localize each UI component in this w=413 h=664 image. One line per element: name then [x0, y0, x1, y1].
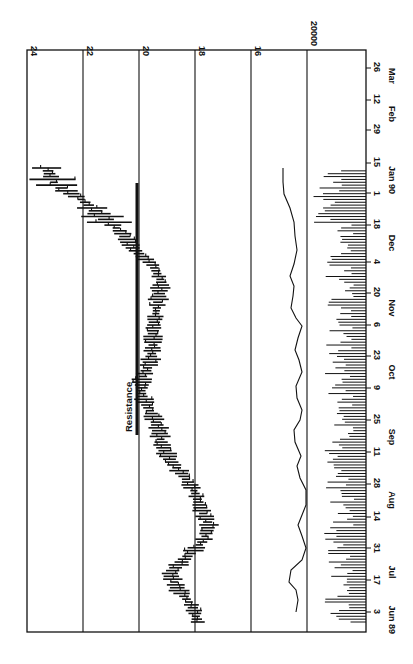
month-label: Aug	[387, 491, 397, 509]
tick-22: 22	[85, 46, 95, 56]
date-label: 20	[372, 287, 382, 297]
volume-average-line	[283, 168, 306, 612]
date-axis-labels: 3 17 31 14 28 11 25 9 23 6 20 4 18 1 15 …	[372, 62, 382, 614]
date-label: 6	[372, 322, 382, 327]
tick-16: 16	[253, 46, 263, 56]
month-label: Mar	[387, 68, 397, 85]
date-label: 26	[372, 62, 382, 72]
tick-20000: 20000	[309, 21, 319, 46]
date-label: 29	[372, 124, 382, 134]
gridlines	[83, 50, 307, 632]
volume-bars	[314, 171, 366, 622]
price-volume-chart: 24 22 20 18 16 20000 3 17 31 14 28 11 25…	[0, 0, 413, 664]
date-label: 3	[372, 609, 382, 614]
date-label: 9	[372, 385, 382, 390]
date-label: 23	[372, 350, 382, 360]
date-label: 1	[372, 191, 382, 196]
month-label: Sep	[387, 429, 397, 446]
resistance-line	[136, 183, 139, 435]
month-label: Jan 90	[387, 166, 397, 194]
month-label: Feb	[387, 106, 397, 123]
tick-24: 24	[29, 46, 39, 56]
date-label: 4	[372, 259, 382, 264]
tick-20: 20	[141, 46, 151, 56]
date-label: 12	[372, 94, 382, 104]
month-label: Dec	[387, 235, 397, 252]
tick-18: 18	[197, 46, 207, 56]
date-label: 15	[372, 157, 382, 167]
price-axis-labels: 24 22 20 18 16 20000	[29, 21, 319, 56]
month-axis-labels: Jun 89 Jul Aug Sep Oct Nov Dec Jan 90 Fe…	[387, 68, 397, 634]
date-label: 11	[372, 447, 382, 457]
date-label: 31	[372, 543, 382, 553]
resistance-label: Resistance	[123, 382, 134, 432]
date-label: 14	[372, 511, 382, 521]
date-label: 18	[372, 219, 382, 229]
date-label: 25	[372, 414, 382, 424]
date-label: 28	[372, 478, 382, 488]
date-label: 17	[372, 575, 382, 585]
month-label: Oct	[387, 364, 397, 379]
month-label: Nov	[387, 299, 397, 316]
date-ticks	[366, 68, 371, 612]
month-label: Jul	[387, 565, 397, 578]
month-label: Jun 89	[387, 605, 397, 634]
